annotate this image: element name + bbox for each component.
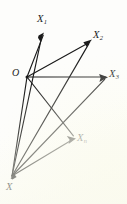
label-xn: Xn bbox=[77, 133, 87, 144]
label-x1: X1 bbox=[37, 14, 47, 25]
vector-diagram-figure: X1 X2 X3 Xn O X bbox=[0, 0, 127, 204]
edge-o-xn bbox=[27, 77, 73, 136]
arrow-heads bbox=[38, 33, 108, 145]
edge-x-x3 bbox=[12, 79, 105, 176]
rays-from-x-point bbox=[12, 36, 105, 176]
label-origin: O bbox=[12, 68, 19, 78]
edge-x-o bbox=[12, 77, 27, 176]
edge-x-x1 bbox=[12, 36, 42, 176]
origin-vertex-dot bbox=[26, 76, 29, 79]
label-x2: X2 bbox=[93, 30, 103, 41]
label-x3: X3 bbox=[109, 69, 119, 80]
label-x-point: X bbox=[6, 182, 12, 193]
vector-diagram-canvas bbox=[0, 0, 127, 204]
